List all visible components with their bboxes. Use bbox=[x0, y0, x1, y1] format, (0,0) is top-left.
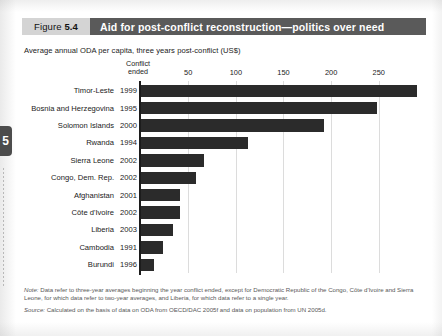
bar-row: Côte d'Ivoire2002 bbox=[22, 205, 426, 222]
bar-row: Liberia2003 bbox=[22, 222, 426, 239]
figure-header-band: Figure 5.4 Aid for post-conflict reconst… bbox=[22, 18, 426, 35]
bar-row: Cambodia1991 bbox=[22, 240, 426, 257]
bar bbox=[141, 172, 196, 184]
bar bbox=[141, 206, 180, 218]
bar-row-conflict-ended-year: 1996 bbox=[112, 260, 137, 269]
x-tick-label: 150 bbox=[277, 68, 289, 77]
bar-row-country-label: Bosnia and Herzegovina bbox=[31, 104, 114, 113]
bar-row-conflict-ended-year: 2002 bbox=[112, 208, 137, 217]
note-lead: Note: bbox=[24, 286, 39, 293]
page-side-rule bbox=[3, 168, 4, 288]
chapter-thumb-tab: 5 bbox=[0, 126, 12, 156]
note-body: Data refer to three-year averages beginn… bbox=[24, 286, 413, 301]
bar-row-conflict-ended-year: 2003 bbox=[112, 225, 137, 234]
bar-row-conflict-ended-year: 1994 bbox=[112, 138, 137, 147]
conflict-ended-header-line2: ended bbox=[118, 68, 158, 76]
bar-row: Afghanistan2001 bbox=[22, 187, 426, 204]
bar-rows: Timor-Leste1999Bosnia and Herzegovina199… bbox=[22, 83, 426, 274]
figure-number-prefix: Figure bbox=[34, 21, 62, 32]
source-body: Calculated on the basis of data on ODA f… bbox=[45, 306, 327, 313]
bar-row-country-label: Rwanda bbox=[86, 138, 114, 147]
figure-subtitle: Average annual ODA per capita, three yea… bbox=[24, 46, 241, 55]
bar-row-conflict-ended-year: 2002 bbox=[112, 156, 137, 165]
bar bbox=[141, 154, 205, 166]
bar bbox=[141, 85, 417, 97]
bar bbox=[141, 259, 154, 271]
bar-row: Congo, Dem. Rep.2002 bbox=[22, 170, 426, 187]
bar bbox=[141, 189, 180, 201]
bar bbox=[141, 224, 173, 236]
x-tick-label: 250 bbox=[373, 68, 385, 77]
figure-number-box: Figure 5.4 bbox=[22, 18, 90, 35]
x-tick-label: 200 bbox=[325, 68, 337, 77]
bar-row: Timor-Leste1999 bbox=[22, 83, 426, 100]
x-tick-label: 50 bbox=[184, 68, 192, 77]
bar-row: Burundi1996 bbox=[22, 257, 426, 274]
bar-row-conflict-ended-year: 1999 bbox=[112, 86, 137, 95]
bar-row: Rwanda1994 bbox=[22, 135, 426, 152]
bar-row-conflict-ended-year: 2001 bbox=[112, 191, 137, 200]
bar-row: Solomon Islands2000 bbox=[22, 118, 426, 135]
figure-title: Aid for post-conflict reconstruction—pol… bbox=[90, 18, 426, 35]
figure-number: 5.4 bbox=[64, 21, 78, 32]
bar-row-conflict-ended-year: 1991 bbox=[112, 243, 137, 252]
bar bbox=[141, 119, 325, 131]
x-tick-label: 100 bbox=[230, 68, 242, 77]
bar-row-country-label: Liberia bbox=[91, 225, 114, 234]
bar-row-country-label: Congo, Dem. Rep. bbox=[51, 173, 114, 182]
note-text: Note: Data refer to three-year averages … bbox=[24, 286, 424, 302]
bar-row-country-label: Timor-Leste bbox=[74, 86, 114, 95]
chart-plot-area: Conflict ended 50100150200250 Timor-Lest… bbox=[22, 60, 426, 282]
source-text: Source: Calculated on the basis of data … bbox=[24, 306, 424, 314]
bar bbox=[141, 241, 164, 253]
bar-row-country-label: Solomon Islands bbox=[58, 121, 114, 130]
figure-page: 5 Figure 5.4 Aid for post-conflict recon… bbox=[0, 0, 442, 336]
bar bbox=[141, 102, 377, 114]
bar bbox=[141, 137, 249, 149]
bar-row: Bosnia and Herzegovina1995 bbox=[22, 100, 426, 117]
source-lead: Source: bbox=[24, 306, 45, 313]
bar-row-conflict-ended-year: 2002 bbox=[112, 173, 137, 182]
figure-container: Figure 5.4 Aid for post-conflict reconst… bbox=[22, 18, 426, 318]
conflict-ended-column-header: Conflict ended bbox=[118, 60, 158, 76]
bar-row: Sierra Leone2002 bbox=[22, 153, 426, 170]
bar-row-conflict-ended-year: 1995 bbox=[112, 104, 137, 113]
bar-row-country-label: Burundi bbox=[88, 260, 114, 269]
bar-row-country-label: Cambodia bbox=[79, 243, 114, 252]
bar-row-country-label: Afghanistan bbox=[74, 191, 114, 200]
bar-row-conflict-ended-year: 2000 bbox=[112, 121, 137, 130]
bar-row-country-label: Côte d'Ivoire bbox=[72, 208, 114, 217]
chapter-tab-label: 5 bbox=[2, 134, 9, 148]
figure-notes: Note: Data refer to three-year averages … bbox=[24, 286, 424, 314]
bar-row-country-label: Sierra Leone bbox=[71, 156, 114, 165]
